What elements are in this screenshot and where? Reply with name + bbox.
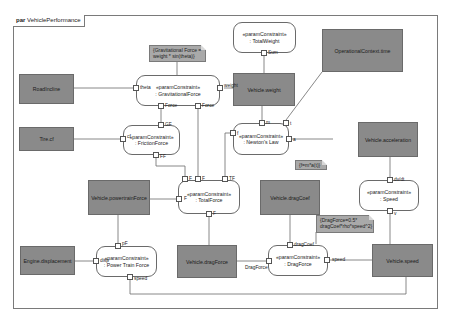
port-label-ff-ff: FF	[160, 154, 166, 160]
port-label-tf-f2: F	[202, 176, 205, 182]
port-label-gf-force2: Force	[202, 103, 214, 109]
constraint-name: : DragForce	[284, 261, 311, 268]
port-label-gf-theta: theta	[140, 85, 151, 91]
block-label: Vehicle.weight	[247, 87, 280, 93]
port-df-dragcoef[interactable]	[287, 242, 293, 248]
port-nl-t[interactable]	[283, 120, 289, 126]
block-label: Vehicle.powertrainForce	[91, 195, 147, 201]
port-label-nl-m: m	[266, 120, 270, 126]
diagram-frame-tab: par VehiclePerformance	[13, 15, 85, 27]
diagram-kind: par	[16, 17, 25, 23]
block-road-incline[interactable]: RoadIncline	[19, 74, 74, 104]
constraint-newtons-law[interactable]: «paramConstraint» : Newton's Law	[233, 123, 289, 155]
port-ptf-disp[interactable]	[93, 258, 99, 264]
block-vehicle-drag-force[interactable]: Vehicle.dragForce	[177, 245, 237, 278]
port-label-ff-cf: cf	[127, 134, 131, 140]
block-engine-displacement[interactable]: Engine.displacement	[20, 246, 75, 275]
port-label-ptf-speed: speed	[134, 276, 147, 282]
port-label-nl-f: f	[237, 131, 238, 137]
diagram-canvas: par VehiclePerformance RoadIncline Tire.…	[0, 0, 452, 320]
port-label-ptf-disp: disp	[100, 258, 109, 264]
block-label: Vehicle.dragCoef	[270, 195, 310, 201]
constraint-total-weight[interactable]: «paramConstraint» : TotalWeight	[233, 22, 296, 53]
diagram-name: VehiclePerformance	[27, 17, 81, 23]
port-label-tf-f3: F	[184, 196, 187, 202]
port-label-ff-gf: GF	[165, 122, 172, 128]
port-tf-f2[interactable]	[195, 176, 201, 182]
block-label: RoadIncline	[33, 86, 60, 92]
block-label: Vehicle.speed	[386, 258, 418, 264]
block-vehicle-powertrain-force[interactable]: Vehicle.powertrainForce	[88, 180, 150, 215]
port-label-df-speed: speed	[332, 257, 345, 263]
note-newton[interactable]: {f=m*a(t)}	[295, 160, 327, 170]
note-line: dragCoef*rho*speed^2}	[320, 223, 370, 229]
port-tf-tf[interactable]	[222, 176, 228, 182]
port-nl-f[interactable]	[230, 130, 236, 136]
port-label-nl-a: a	[293, 137, 296, 143]
port-gf-force1[interactable]	[158, 103, 164, 109]
note-gravitational-force[interactable]: {Gravitational Force = weight * sin(thet…	[149, 45, 206, 62]
port-label-sp-dvdt: dv/dt	[394, 177, 404, 183]
port-gf-weight[interactable]	[217, 85, 223, 91]
constraint-name: : FrictionForce	[135, 140, 168, 147]
port-ff-gf[interactable]	[158, 122, 164, 128]
block-label: Vehicle.acceleration	[365, 137, 411, 143]
port-label-tf-f4: F	[213, 211, 216, 217]
port-label-ptf-pf: pF	[122, 241, 128, 247]
block-vehicle-drag-coef[interactable]: Vehicle.dragCoef	[260, 180, 320, 215]
constraint-name: : TotalWeight	[250, 38, 280, 45]
port-tf-f3[interactable]	[176, 196, 182, 202]
port-df-speed[interactable]	[324, 257, 330, 263]
block-operational-context-time[interactable]: OperationalContext.time	[322, 29, 403, 72]
port-label-nl-t: t	[290, 121, 291, 127]
note-line: weight * sin(theta)}	[153, 53, 202, 59]
block-label: Vehicle.dragForce	[186, 259, 228, 265]
port-label-gf-force1: Force	[165, 103, 177, 109]
port-ff-ff[interactable]	[153, 152, 159, 158]
block-vehicle-speed[interactable]: Vehicle.speed	[372, 244, 433, 277]
block-label: Tire.cf	[39, 136, 53, 142]
port-tf-f4[interactable]	[206, 211, 212, 217]
block-vehicle-weight[interactable]: Vehicle.weight	[233, 73, 295, 106]
port-ptf-speed[interactable]	[127, 274, 133, 280]
constraint-drag-force[interactable]: «paramConstraint» : DragForce	[268, 245, 328, 276]
port-df-dragforce[interactable]	[266, 258, 272, 264]
port-label-tf-f1: F	[189, 176, 192, 182]
block-label: Engine.displacement	[23, 258, 71, 264]
port-gf-force2[interactable]	[195, 103, 201, 109]
note-drag-force[interactable]: {DragForce=0.5* dragCoef*rho*speed^2}	[316, 215, 374, 233]
port-ptf-pf[interactable]	[115, 243, 121, 249]
port-tw-sum[interactable]	[261, 50, 267, 56]
constraint-name: : GravitationalForce	[155, 91, 200, 98]
constraint-name: : Speed	[380, 196, 398, 203]
constraint-name: : TotalForce	[195, 197, 222, 204]
port-label-sp-v: v	[394, 211, 396, 217]
port-ff-cf[interactable]	[120, 136, 126, 142]
port-label-gf-weight: weight	[224, 83, 238, 89]
port-label-tf-tf: TF	[229, 176, 235, 182]
port-gf-theta[interactable]	[133, 85, 139, 91]
block-label: OperationalContext.time	[335, 48, 391, 54]
constraint-name: : Power Train Force	[104, 262, 149, 269]
port-label-df-dragcoef: dragCoef	[294, 242, 314, 248]
constraint-name: : Newton's Law	[243, 139, 278, 146]
block-tire-cf[interactable]: Tire.cf	[19, 127, 74, 151]
port-sp-v[interactable]	[387, 208, 393, 214]
constraint-speed[interactable]: «paramConstraint» : Speed	[359, 180, 419, 211]
port-label-tw-sum: Sum	[268, 50, 278, 56]
port-sp-dvdt[interactable]	[387, 177, 393, 183]
port-nl-m[interactable]	[259, 120, 265, 126]
block-vehicle-acceleration[interactable]: Vehicle.acceleration	[358, 122, 418, 157]
constraint-friction-force[interactable]: «paramConstraint» : FrictionForce	[123, 125, 180, 155]
note-line: {f=m*a(t)}	[299, 162, 323, 168]
constraint-total-force[interactable]: «paramConstraint» : TotalForce	[178, 180, 240, 214]
port-label-df-dragforce: DragForce	[245, 265, 268, 271]
port-tf-f1[interactable]	[182, 176, 188, 182]
port-nl-a[interactable]	[286, 136, 292, 142]
